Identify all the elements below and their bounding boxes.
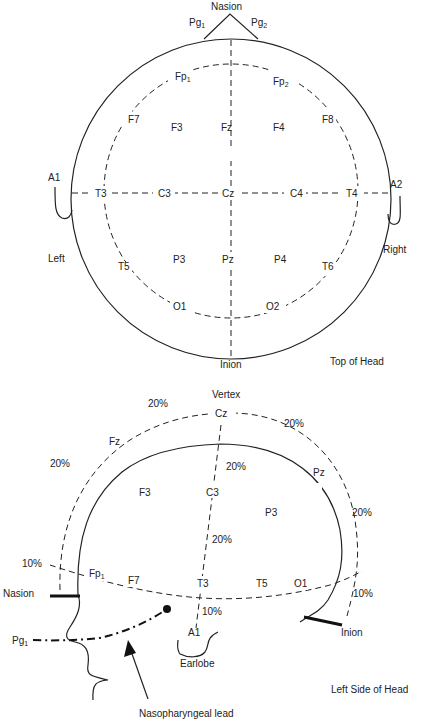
- pointer-arrow-line: [131, 651, 148, 699]
- pointer-arrow-head: [124, 640, 136, 657]
- electrode-f7: F7: [128, 114, 140, 125]
- electrode-o2: O2: [266, 301, 280, 312]
- nasion-label: Nasion: [211, 1, 242, 12]
- earlobe-label: Earlobe: [180, 658, 215, 669]
- side-a1-label: A1: [188, 627, 201, 638]
- electrode-f4: F4: [273, 122, 285, 133]
- electrode-o1: O1: [173, 301, 187, 312]
- electrode-fz: Fz: [221, 122, 232, 133]
- pct-left-mid: 20%: [50, 458, 70, 469]
- electrode-c3: C3: [158, 188, 171, 199]
- side-electrode-o1: O1: [294, 578, 308, 589]
- electrode-pz: Pz: [222, 254, 234, 265]
- pct-top-left: 20%: [148, 398, 168, 409]
- a2-label: A2: [390, 179, 403, 190]
- side-electrode-f3: F3: [139, 487, 151, 498]
- pg1-label: Pg1: [189, 17, 205, 29]
- vertex-label: Vertex: [212, 389, 240, 400]
- side-electrode-fz: Fz: [109, 436, 120, 447]
- electrode-t6: T6: [322, 261, 334, 272]
- pct-top-right: 20%: [284, 418, 304, 429]
- left-ear: [55, 187, 72, 219]
- nose-outline: [204, 14, 258, 39]
- a1-label: A1: [48, 172, 61, 183]
- inion-marker: [304, 617, 342, 625]
- top-of-head-title: Top of Head: [330, 356, 384, 367]
- side-electrode-c3: C3: [206, 487, 219, 498]
- pg2-label: Pg2: [251, 17, 267, 29]
- side-nasion-label: Nasion: [3, 588, 34, 599]
- pct-back-low: 10%: [353, 588, 373, 599]
- head-profile: [78, 444, 342, 622]
- face-profile: [67, 595, 108, 700]
- electrode-f8: F8: [322, 114, 334, 125]
- electrode-t5: T5: [118, 261, 130, 272]
- electrode-t3: T3: [95, 188, 107, 199]
- side-inion-label: Inion: [341, 627, 363, 638]
- top-view: Nasion Pg1 Pg2 A1 A2 Left Right Inion To…: [48, 1, 407, 370]
- electrode-p4: P4: [274, 254, 287, 265]
- side-electrode-p3: P3: [265, 507, 278, 518]
- nasopharyngeal-lead: [33, 609, 167, 640]
- side-electrode-pz: Pz: [313, 467, 325, 478]
- electrode-f3: F3: [171, 122, 183, 133]
- lead-tip: [163, 605, 171, 613]
- right-label: Right: [383, 244, 407, 255]
- eeg-10-20-diagram: Nasion Pg1 Pg2 A1 A2 Left Right Inion To…: [0, 0, 425, 726]
- pct-right-mid: 20%: [352, 507, 372, 518]
- electrode-t4: T4: [346, 188, 358, 199]
- side-electrode-t3: T3: [197, 578, 209, 589]
- side-label-masks: [76, 406, 322, 590]
- side-electrode-t5: T5: [256, 578, 268, 589]
- side-electrode-cz: Cz: [215, 408, 227, 419]
- pct-front-low: 10%: [22, 558, 42, 569]
- pct-ear: 10%: [202, 606, 222, 617]
- side-pg1-label: Pg1: [12, 635, 28, 647]
- side-electrode-f7: F7: [128, 575, 140, 586]
- nasopharyngeal-lead-label: Nasopharyngeal lead: [139, 708, 234, 719]
- pct-center-lower: 20%: [212, 534, 232, 545]
- electrode-p3: P3: [173, 254, 186, 265]
- left-label: Left: [48, 253, 65, 264]
- pct-center-upper: 20%: [226, 461, 246, 472]
- electrode-c4: C4: [290, 188, 303, 199]
- side-view: Vertex Cz 20% 20% Fz 20% 20% Pz F3 C3 P3…: [3, 389, 408, 719]
- inion-label: Inion: [220, 359, 242, 370]
- electrode-cz: Cz: [222, 188, 234, 199]
- left-side-of-head-title: Left Side of Head: [331, 684, 408, 695]
